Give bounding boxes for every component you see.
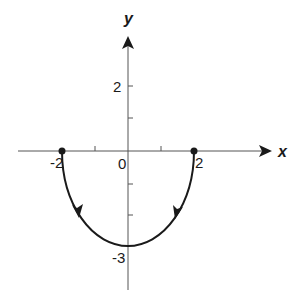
tick-label-x-zero: 0 xyxy=(118,155,126,172)
tick-label-x-neg2: -2 xyxy=(50,154,63,171)
x-axis-label: x xyxy=(277,143,288,160)
tick-label-y-pos2: 2 xyxy=(113,78,121,95)
y-axis-label: y xyxy=(123,10,134,27)
parametric-curve-diagram: y x -2 0 2 2 -3 xyxy=(0,0,301,300)
left-direction-arrow-icon xyxy=(72,204,83,218)
tick-label-x-pos2: 2 xyxy=(195,154,203,171)
tick-label-y-neg3: -3 xyxy=(112,249,125,266)
